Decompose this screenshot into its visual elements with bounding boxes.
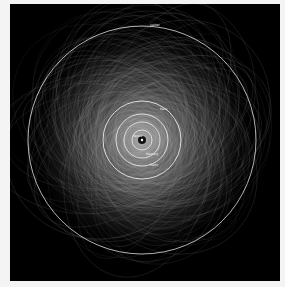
earth-label: Earth [150, 163, 158, 167]
orbit-diagram: JupiterMarsEarthVenusMercury [10, 4, 280, 281]
mars-label: Mars [160, 107, 167, 111]
sun-icon [141, 139, 143, 141]
orbit-plot [10, 4, 280, 281]
venus-label: Venus [133, 134, 142, 138]
jupiter-label: Jupiter [150, 23, 160, 27]
mercury-label: Mercury [146, 152, 158, 156]
